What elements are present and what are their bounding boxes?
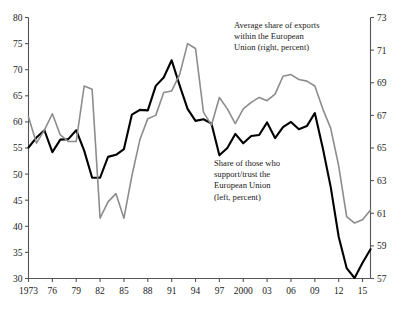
right-axis-tick-label: 73	[377, 13, 387, 23]
left-axis-tick-label: 30	[13, 274, 23, 284]
x-axis-tick-label: 1973	[19, 286, 38, 296]
left-axis-tick-label: 80	[13, 13, 23, 23]
right-axis-tick-label: 57	[377, 274, 387, 284]
x-axis-tick-label: 88	[143, 286, 153, 296]
x-axis-tick-label: 2000	[234, 286, 253, 296]
left-axis-tick-label: 60	[13, 117, 23, 127]
x-axis-tick-label: 97	[215, 286, 225, 296]
left-axis-tick-label: 50	[13, 170, 23, 180]
annotation-exports-series: Average share of exports within the Euro…	[234, 20, 320, 54]
right-axis-tick-label: 67	[377, 111, 387, 121]
right-axis-tick-label: 59	[377, 241, 387, 251]
dual-axis-line-chart: 3035404550556065707580575961636567697173…	[0, 0, 409, 309]
x-axis-tick-label: 79	[71, 286, 81, 296]
left-axis-tick-label: 65	[13, 91, 23, 101]
x-axis-tick-label: 06	[286, 286, 296, 296]
right-axis-tick-label: 69	[377, 78, 387, 88]
chart-container: 3035404550556065707580575961636567697173…	[0, 0, 409, 309]
x-axis-tick-label: 15	[358, 286, 368, 296]
right-axis-tick-label: 65	[377, 143, 387, 153]
left-axis-tick-label: 40	[13, 222, 23, 232]
x-axis-tick-label: 12	[334, 286, 344, 296]
right-axis-tick-label: 61	[377, 209, 387, 219]
right-axis-tick-label: 63	[377, 176, 387, 186]
right-axis-tick-label: 71	[377, 46, 387, 56]
annotation-support-series: Share of those who support/trust the Eur…	[214, 158, 280, 203]
left-axis-tick-label: 75	[13, 39, 23, 49]
x-axis-tick-label: 94	[191, 286, 201, 296]
x-axis-tick-label: 85	[119, 286, 129, 296]
x-axis-tick-label: 09	[310, 286, 320, 296]
left-axis-tick-label: 70	[13, 65, 23, 75]
left-axis-tick-label: 55	[13, 143, 23, 153]
plot-background	[0, 0, 409, 309]
x-axis-tick-label: 82	[95, 286, 105, 296]
x-axis-tick-label: 03	[262, 286, 272, 296]
x-axis-tick-label: 76	[48, 286, 58, 296]
x-axis-tick-label: 91	[167, 286, 177, 296]
left-axis-tick-label: 45	[13, 196, 23, 206]
left-axis-tick-label: 35	[13, 248, 23, 258]
